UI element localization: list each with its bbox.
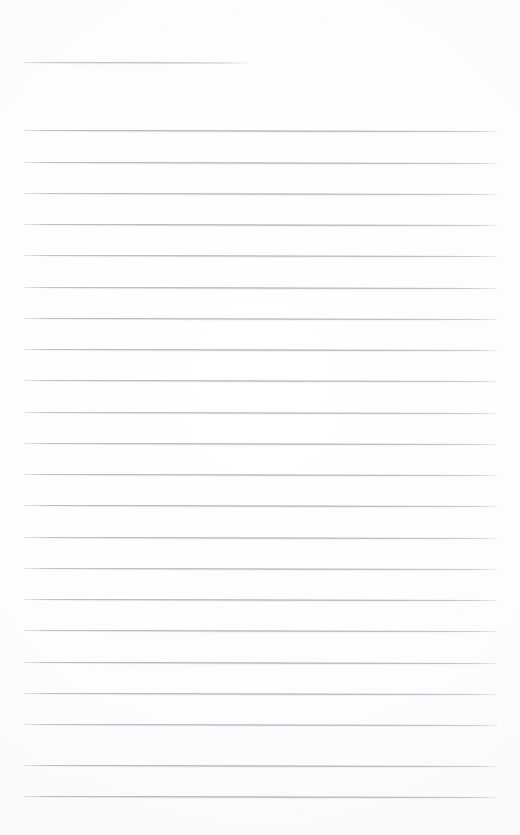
header-rule [24,62,248,63]
ruled-paper-page [0,0,520,835]
writing-area[interactable] [24,110,497,810]
